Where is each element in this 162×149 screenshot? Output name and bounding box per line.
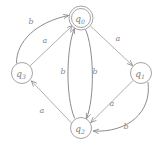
transition-q3-to-q0-a[interactable]: a bbox=[31, 26, 73, 66]
transition-path bbox=[68, 29, 75, 119]
transition-q0-to-q1-a[interactable]: a bbox=[91, 26, 133, 66]
transition-label-a: a bbox=[110, 99, 115, 108]
transition-label-b: b bbox=[92, 67, 97, 76]
transition-path bbox=[32, 81, 72, 123]
automaton-canvas: b a a b b bbox=[0, 0, 162, 149]
transition-label-b: b bbox=[123, 122, 128, 131]
transition-q2-to-q0-b[interactable]: b bbox=[60, 29, 74, 119]
transition-q2-to-q3-a[interactable]: a bbox=[32, 81, 72, 123]
transition-path bbox=[91, 26, 133, 66]
transition-label-a: a bbox=[40, 106, 45, 115]
state-node-q1[interactable]: q1 bbox=[131, 63, 152, 84]
transition-label-b: b bbox=[60, 67, 65, 76]
transition-q0-to-q2-b[interactable]: b bbox=[86, 30, 98, 119]
transition-label-a: a bbox=[116, 34, 121, 43]
transition-path bbox=[31, 26, 73, 66]
transition-q1-to-q2-b[interactable]: b bbox=[94, 83, 149, 132]
transition-path bbox=[94, 83, 149, 132]
transition-label-a: a bbox=[43, 36, 48, 45]
state-node-q2[interactable]: q2 bbox=[71, 118, 92, 139]
transition-q1-to-q2-a[interactable]: a bbox=[91, 81, 133, 123]
transition-path bbox=[86, 30, 93, 119]
state-node-q0[interactable]: q0 bbox=[69, 6, 93, 30]
states-layer: q0 q3 q1 q2 bbox=[12, 6, 152, 139]
transitions-layer: b a a b b bbox=[16, 16, 148, 132]
automaton-diagram: b a a b b bbox=[0, 0, 162, 149]
state-node-q3[interactable]: q3 bbox=[12, 63, 33, 84]
transition-label-b: b bbox=[28, 17, 33, 26]
